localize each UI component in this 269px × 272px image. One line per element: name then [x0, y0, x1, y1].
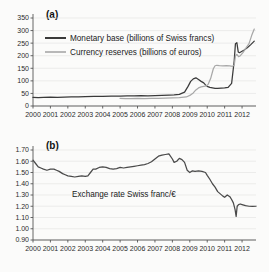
legend-label: Monetary base (billions of Swiss francs): [70, 34, 215, 43]
x-tick-label: 2001: [43, 245, 59, 252]
x-tick-label: 2007: [147, 111, 163, 118]
panel-a-plot: 0501001502002503003502000200120022003200…: [0, 0, 269, 136]
y-tick-label: 1.30: [15, 191, 29, 198]
y-tick-label: 250: [17, 40, 29, 47]
x-tick-label: 2002: [60, 245, 76, 252]
x-tick-label: 2001: [43, 111, 59, 118]
x-tick-label: 2003: [77, 111, 93, 118]
y-tick-label: 300: [17, 27, 29, 34]
figure-container: (a) 050100150200250300350200020012002200…: [0, 0, 269, 272]
x-tick-label: 2008: [165, 111, 181, 118]
y-tick-label: 1.60: [15, 158, 29, 165]
x-tick-label: 2010: [199, 111, 215, 118]
x-tick-label: 2011: [217, 111, 232, 118]
y-tick-label: 0: [25, 102, 29, 109]
exchange-rate-annotation: Exchange rate Swiss franc/€: [72, 190, 176, 199]
x-tick-label: 2007: [147, 245, 163, 252]
x-tick-label: 2012: [234, 111, 250, 118]
x-tick-label: 2000: [25, 111, 41, 118]
chart-panel-b: (b) 0.901.001.101.201.301.401.501.601.70…: [0, 136, 269, 272]
y-tick-label: 1.10: [15, 214, 29, 221]
y-tick-label: 0.90: [15, 236, 29, 243]
x-tick-label: 2003: [77, 245, 93, 252]
y-tick-label: 200: [17, 52, 29, 59]
x-tick-label: 2009: [182, 111, 198, 118]
x-tick-label: 2005: [112, 111, 128, 118]
y-tick-label: 350: [17, 14, 29, 21]
y-tick-label: 100: [17, 77, 29, 84]
x-tick-label: 2005: [112, 245, 128, 252]
x-tick-label: 2012: [234, 245, 250, 252]
x-tick-label: 2010: [199, 245, 215, 252]
x-tick-label: 2006: [130, 245, 146, 252]
y-tick-label: 50: [21, 90, 29, 97]
y-tick-label: 1.50: [15, 169, 29, 176]
y-tick-label: 1.20: [15, 203, 29, 210]
x-tick-label: 2006: [130, 111, 146, 118]
x-tick-label: 2008: [165, 245, 181, 252]
x-tick-label: 2004: [95, 111, 111, 118]
series-line: [33, 154, 256, 216]
y-tick-label: 1.70: [15, 146, 29, 153]
y-tick-label: 1.00: [15, 225, 29, 232]
y-tick-label: 150: [17, 65, 29, 72]
x-tick-label: 2004: [95, 245, 111, 252]
legend-label: Currency reserves (billions of euros): [70, 48, 202, 57]
x-tick-label: 2009: [182, 245, 198, 252]
chart-panel-a: (a) 050100150200250300350200020012002200…: [0, 0, 269, 136]
x-tick-label: 2011: [217, 245, 232, 252]
x-tick-label: 2000: [25, 245, 41, 252]
panel-b-plot: 0.901.001.101.201.301.401.501.601.702000…: [0, 136, 269, 272]
x-tick-label: 2002: [60, 111, 76, 118]
y-tick-label: 1.40: [15, 180, 29, 187]
